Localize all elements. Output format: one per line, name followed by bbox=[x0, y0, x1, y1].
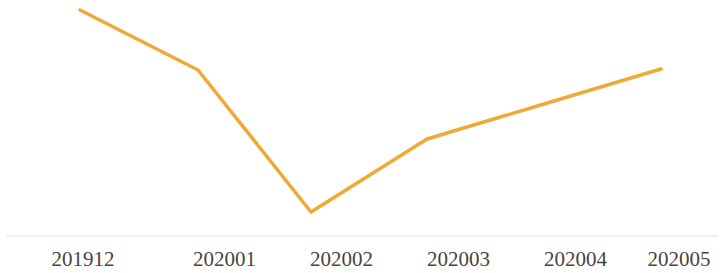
x-axis-tick-label-202002: 202002 bbox=[283, 248, 400, 271]
chart-screenshot: 201912 202001 202002 202003 202004 20200… bbox=[0, 0, 724, 273]
x-axis-tick-label-202001: 202001 bbox=[166, 248, 283, 271]
x-axis-tick-label-201912: 201912 bbox=[0, 248, 166, 271]
series-line-1 bbox=[80, 10, 661, 212]
x-axis-tick-labels: 201912 202001 202002 202003 202004 20200… bbox=[0, 248, 724, 273]
x-axis-tick-label-202005: 202005 bbox=[634, 248, 724, 271]
x-axis-tick-label-202004: 202004 bbox=[517, 248, 634, 271]
x-axis-tick-label-202003: 202003 bbox=[400, 248, 517, 271]
line-chart-plot bbox=[0, 0, 724, 273]
